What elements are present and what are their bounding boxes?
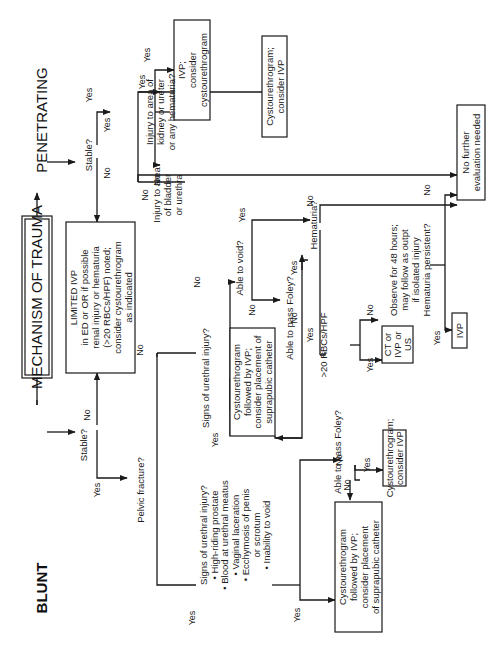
bladder-question-line: of bladder (162, 174, 173, 216)
cysto-suprapubic-low-text-line: followed by IVP; (348, 533, 359, 601)
yes-branch-label: Yes (102, 117, 112, 132)
hematuria-question-line: Hematuria? (308, 200, 319, 249)
kidney-question-line: kidney or ureter (155, 79, 166, 145)
link-stable-yes-pelvic (97, 430, 127, 478)
yes-branch-label: Yes (210, 432, 220, 447)
stable-penetrating-question-line: Stable? (83, 139, 94, 171)
urethral-injury-question: Signs of urethral injury? (200, 328, 211, 428)
urethral-injury-signs-list-line: • Ecchymosis of penis (240, 488, 251, 581)
link-rbc-no (360, 320, 378, 345)
ct-ivp-us-text-line: US (402, 338, 413, 351)
urethral-injury-question-line: Signs of urethral injury? (200, 328, 211, 428)
link-bladder-no (138, 175, 457, 182)
no-branch-label: No (365, 304, 375, 316)
link-urel-yes (300, 585, 335, 600)
cysto-consider-ivp-low-text-line: consider IVP (394, 431, 405, 485)
limited-ivp-text-line: LIMITED IVP (68, 270, 79, 325)
no-branch-label: No (192, 276, 202, 288)
rbc-threshold-question-line: >20 RBCs/HPF (318, 312, 329, 377)
urethral-injury-signs-list-line: or scrotum (251, 512, 262, 557)
limited-ivp-text-line: as indicated (123, 272, 134, 323)
no-branch-label: No (82, 409, 92, 421)
bladder-question-line: or urethra (173, 174, 184, 216)
ivp-final-text: IVP (454, 323, 465, 338)
able-to-pass-foley-low-question-line: Able to pass Foley? (332, 410, 343, 493)
ivp-consider-text-line: cystourethrogram (198, 33, 209, 107)
cysto-suprapubic-mid-text-line: consider placement of (252, 335, 263, 428)
no-branch-label: No (140, 189, 150, 201)
no-branch-label: No (305, 195, 315, 207)
pelvic-fracture-question: Pelvic fracture? (135, 457, 146, 522)
limited-ivp-text-line: consider cystourethrogram (112, 241, 123, 354)
observe-48h-text-line: Hematuria persistent? (421, 224, 432, 317)
yes-branch-label: Yes (142, 47, 152, 62)
urethral-injury-signs-list-line: • Vaginal laceration (230, 495, 241, 576)
yes-branch-label: Yes (432, 330, 442, 345)
observe-48h-text-line: Observe for 48 hours; (388, 224, 399, 316)
urethral-injury-signs-list-line: Signs of urethral injury? (198, 485, 209, 585)
ivp-final-text-line: IVP (454, 323, 465, 338)
no-branch-label: No (422, 184, 432, 196)
no-branch-label: No (152, 174, 162, 186)
yes-branch-label: Yes (237, 207, 247, 222)
ivp-consider-text-line: IVP; (176, 61, 187, 79)
cysto-suprapubic-mid-text-line: suprapubic catheter (263, 340, 274, 423)
cysto-consider-ivp-top-text-line: consider IVP (275, 60, 286, 114)
observe-48h-text-line: may follow as outpt (399, 229, 410, 311)
rbc-threshold-question: >20 RBCs/HPF (318, 312, 329, 377)
cysto-suprapubic-mid-text: Cystourethrogramfollowed by IVP;consider… (231, 335, 274, 428)
cysto-suprapubic-mid-text-line: Cystourethrogram (231, 344, 242, 420)
link-pelvic-yes (157, 490, 196, 585)
cysto-consider-ivp-low-text-line: Cystourethrogram; (384, 419, 395, 498)
observe-48h-text: Observe for 48 hours;may follow as outpt… (388, 224, 432, 317)
urethral-injury-signs-list-line: • High-riding prostate (209, 491, 220, 580)
cysto-suprapubic-low-text-line: consider placement (359, 525, 370, 608)
yes-branch-label: Yes (187, 610, 197, 625)
urethral-injury-signs-list-line: • Inability to void (261, 501, 272, 570)
kidney-question: Injury to area ofkidney or ureteror any … (144, 74, 177, 151)
hematuria-question: Hematuria? (308, 200, 319, 249)
nodes: MECHANISM OF TRAUMA BLUNT PENETRATING LI… (22, 20, 485, 632)
yes-branch-label: Yes (365, 357, 375, 372)
blunt-label: BLUNT (33, 563, 50, 614)
yes-branch-label: Yes (289, 260, 299, 275)
yes-branch-label: Yes (292, 607, 302, 622)
limited-ivp-text-line: renal injury or hematuria (90, 246, 101, 349)
link-void-no (252, 268, 280, 300)
cysto-suprapubic-low-text-line: Cystourethrogram (337, 529, 348, 605)
yes-branch-label: Yes (84, 87, 94, 102)
stable-penetrating-question: Stable? (83, 139, 94, 171)
no-branch-label: No (135, 344, 145, 356)
no-further-text-line: evaluation needed (471, 114, 482, 192)
observe-48h-text-line: if isolated injury (410, 237, 421, 303)
no-branch-label: No (289, 312, 299, 324)
urethral-injury-signs-list: Signs of urethral injury?• High-riding p… (198, 480, 272, 590)
link-foll-no (355, 465, 360, 480)
link-void-yes (252, 220, 310, 268)
no-branch-label: No (342, 479, 352, 491)
cysto-consider-ivp-top-text-line: Cystourethrogram; (264, 47, 275, 126)
cysto-suprapubic-low-text-line: of suprapubic catheter (370, 520, 381, 614)
ivp-consider-text-line: consider (187, 52, 198, 88)
no-branch-label: No (247, 304, 257, 316)
no-branch-label: No (102, 167, 112, 179)
yes-branch-label: Yes (137, 74, 147, 89)
yes-branch-label: Yes (92, 482, 102, 497)
flowchart-stage: MECHANISM OF TRAUMA BLUNT PENETRATING LI… (0, 0, 501, 648)
yes-branch-label: Yes (305, 327, 315, 342)
link-observe-yes (445, 265, 452, 330)
limited-ivp-text-line: in ED or OR if possible (79, 249, 90, 345)
stable-blunt-question: Stable? (78, 429, 89, 461)
title-text: MECHANISM OF TRAUMA (28, 205, 45, 389)
able-to-void-question: Able to void? (234, 241, 245, 296)
link-hem-no (320, 205, 457, 223)
yes-branch-label: Yes (362, 457, 372, 472)
penetrating-label: PENETRATING (33, 67, 50, 173)
able-to-void-question-line: Able to void? (234, 241, 245, 296)
pelvic-fracture-question-line: Pelvic fracture? (135, 457, 146, 522)
able-to-pass-foley-low-question: Able to pass Foley? (332, 410, 343, 493)
cysto-suprapubic-low-text: Cystourethrogramfollowed by IVP;consider… (337, 520, 381, 614)
kidney-question-line: or any hematuria? (166, 74, 177, 151)
link-foley-yes (302, 260, 308, 300)
stable-blunt-question-line: Stable? (78, 429, 89, 461)
